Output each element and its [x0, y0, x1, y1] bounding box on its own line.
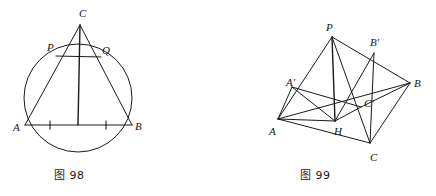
figure-98-panel: C P Q A B 图 98	[0, 0, 218, 196]
figure-98-drawing	[0, 0, 218, 165]
figure-99-panel: P B' A' B C' A H C 图 99	[218, 0, 436, 196]
fig98-label-C: C	[79, 8, 86, 19]
side-CB	[80, 25, 132, 125]
fig98-label-P: P	[47, 42, 54, 53]
fig99-label-A-prime: A'	[286, 77, 295, 88]
side-CA	[25, 25, 80, 125]
fig99-label-H: H	[334, 126, 342, 137]
fig99-label-C: C	[370, 152, 377, 163]
fig98-label-Q: Q	[102, 45, 110, 56]
edge-A-Ap	[278, 87, 292, 119]
altitude-CM	[78, 25, 80, 125]
figure-98-caption: 图 98	[54, 166, 85, 182]
figure-99-caption: 图 99	[300, 166, 331, 182]
edge-A-H	[278, 119, 335, 121]
fig99-label-B: B	[414, 78, 421, 89]
fig99-label-C-prime: C'	[364, 98, 374, 109]
fig99-label-P: P	[326, 22, 333, 33]
fig98-label-A: A	[13, 122, 20, 133]
figure-sheet: C P Q A B 图 98 P B' A' B C' A H C 图 99	[0, 0, 436, 196]
edge-AC	[278, 119, 370, 143]
edge-PH	[332, 37, 335, 121]
fig99-label-B-prime: B'	[370, 37, 379, 48]
fig99-label-A: A	[269, 126, 276, 137]
edge-Ap-H	[292, 87, 335, 121]
fig98-label-B: B	[135, 121, 142, 132]
